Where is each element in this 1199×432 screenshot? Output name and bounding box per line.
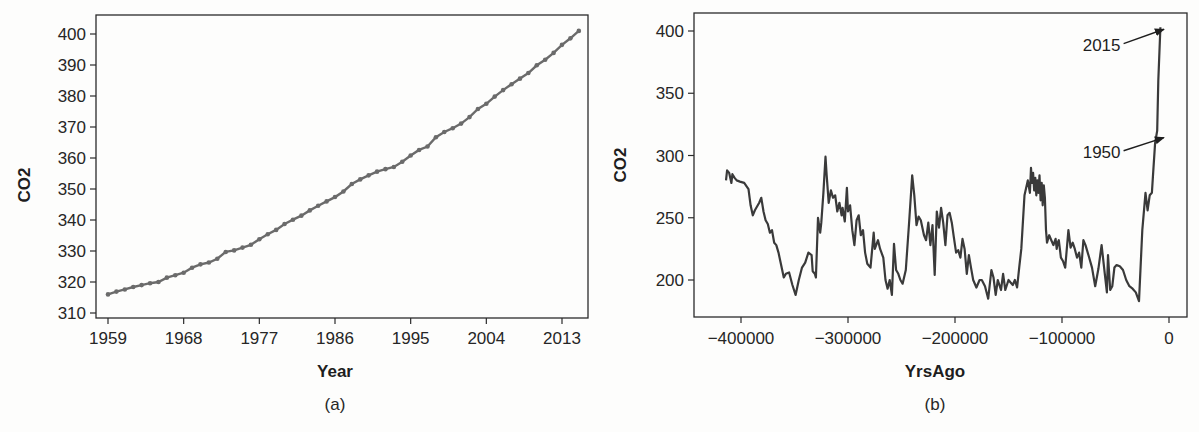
data-point: [240, 245, 245, 250]
x-tick-label: 1959: [89, 329, 127, 348]
y-axis-title-a: CO2: [15, 168, 34, 203]
x-axis-b: −400000−300000−200000−1000000: [708, 317, 1174, 348]
data-point: [223, 250, 228, 255]
y-tick-label: 400: [656, 22, 684, 41]
data-point: [501, 88, 506, 93]
data-point: [190, 265, 195, 270]
data-point: [148, 281, 153, 286]
data-point: [249, 243, 254, 248]
data-point: [366, 173, 371, 178]
data-point: [207, 260, 212, 265]
data-point: [400, 159, 405, 164]
data-point: [215, 256, 220, 261]
data-point: [560, 43, 565, 48]
data-point: [299, 213, 304, 218]
x-tick-label: −200000: [922, 329, 989, 348]
y-axis-a: 310320330340350360370380390400: [58, 25, 96, 323]
y-tick-label: 200: [656, 271, 684, 290]
data-point: [198, 262, 203, 267]
panel-label-b: (b): [925, 395, 946, 414]
data-point: [257, 237, 262, 242]
data-point: [173, 273, 178, 278]
x-axis-title-b: YrsAgo: [905, 362, 965, 381]
y-tick-label: 300: [656, 147, 684, 166]
data-point: [106, 292, 111, 297]
data-point: [341, 189, 346, 194]
y-tick-label: 310: [58, 304, 86, 323]
x-tick-label: 1986: [316, 329, 354, 348]
data-point: [551, 51, 556, 56]
data-point: [392, 165, 397, 170]
x-axis-a: 1959196819771986199520042013: [89, 318, 581, 348]
y-tick-label: 360: [58, 149, 86, 168]
data-point: [375, 169, 380, 174]
data-point: [181, 270, 186, 275]
data-point: [484, 101, 489, 106]
panel-label-a: (a): [325, 395, 346, 414]
data-point: [350, 182, 355, 187]
data-point: [324, 199, 329, 204]
annotation-1950: 1950: [1083, 143, 1121, 162]
y-axis-b: 200250300350400: [656, 22, 694, 290]
data-point: [156, 280, 161, 285]
data-point: [333, 195, 338, 200]
y-tick-label: 350: [656, 84, 684, 103]
data-point: [123, 287, 128, 292]
data-point: [291, 217, 296, 222]
data-point: [307, 208, 312, 213]
data-point: [526, 71, 531, 76]
y-tick-label: 350: [58, 180, 86, 199]
y-tick-label: 380: [58, 87, 86, 106]
data-point: [450, 126, 455, 131]
x-tick-label: −400000: [708, 329, 775, 348]
data-point: [358, 177, 363, 182]
chart-panel-a: 310320330340350360370380390400 195919681…: [15, 15, 588, 414]
data-point: [434, 135, 439, 140]
data-point: [492, 94, 497, 99]
data-point: [459, 121, 464, 126]
data-point: [408, 153, 413, 158]
data-point: [131, 285, 136, 290]
data-point: [577, 29, 582, 34]
data-point: [518, 76, 523, 81]
data-point: [509, 82, 514, 87]
data-point: [383, 167, 388, 172]
data-point: [114, 289, 119, 294]
x-tick-label: 1977: [240, 329, 278, 348]
x-axis-title-a: Year: [317, 362, 353, 381]
y-tick-label: 370: [58, 118, 86, 137]
data-point: [282, 222, 287, 227]
data-point: [274, 228, 279, 233]
chart-panel-b: 200250300350400 −400000−300000−200000−10…: [611, 13, 1187, 414]
x-tick-label: −300000: [815, 329, 882, 348]
x-tick-label: 2004: [467, 329, 505, 348]
x-tick-label: 2013: [543, 329, 581, 348]
data-point: [265, 232, 270, 237]
data-point: [316, 203, 321, 208]
y-tick-label: 400: [58, 25, 86, 44]
data-point: [467, 115, 472, 120]
data-point: [442, 130, 447, 135]
x-tick-label: −100000: [1029, 329, 1096, 348]
x-tick-label: 1968: [165, 329, 203, 348]
data-point: [165, 275, 170, 280]
data-point: [425, 144, 430, 149]
data-point: [417, 148, 422, 153]
data-point: [568, 36, 573, 41]
y-tick-label: 320: [58, 273, 86, 292]
x-tick-label: 1995: [392, 329, 430, 348]
y-tick-label: 390: [58, 56, 86, 75]
data-point: [534, 63, 539, 68]
annotation-2015: 2015: [1083, 36, 1121, 55]
data-point: [139, 283, 144, 288]
y-tick-label: 330: [58, 242, 86, 261]
plot-area-a: [96, 15, 588, 318]
data-point: [232, 248, 237, 253]
data-point: [543, 57, 548, 62]
data-point: [476, 107, 481, 112]
x-tick-label: 0: [1164, 329, 1173, 348]
y-axis-title-b: CO2: [611, 148, 630, 183]
figure: 310320330340350360370380390400 195919681…: [0, 0, 1199, 432]
y-tick-label: 340: [58, 211, 86, 230]
y-tick-label: 250: [656, 209, 684, 228]
